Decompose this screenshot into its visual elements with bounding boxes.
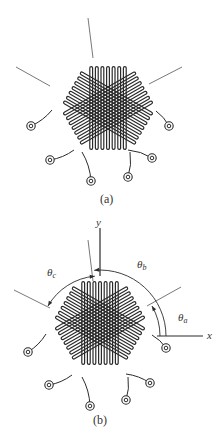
strain-gauge-rosette-diagram: (a) (b) y x θa θb θc — [0, 0, 224, 438]
gauge-element-150deg — [56, 287, 145, 359]
solder-terminal-icon — [87, 177, 95, 185]
gauge-axis-reference-line — [14, 290, 50, 308]
gauge-axis-reference-line — [88, 240, 93, 281]
gauge-grid-loops — [64, 72, 153, 144]
y-axis-label: y — [95, 216, 101, 228]
theta-a-label: θa — [178, 311, 187, 325]
figure-a-caption: (a) — [100, 192, 113, 206]
solder-terminal-icon — [146, 379, 154, 387]
theta-c-label: θc — [47, 266, 56, 280]
solder-terminal-icon — [148, 154, 156, 162]
figure-a-rosette — [16, 18, 182, 185]
figure-b-caption: (b) — [93, 413, 107, 427]
solder-terminal-icon — [45, 381, 53, 389]
gauge-axis-reference-line — [88, 18, 93, 58]
gauge-axis-reference-line — [149, 67, 182, 84]
figure-b-rosette-with-angles — [14, 228, 203, 410]
solder-terminal-icon — [86, 402, 94, 410]
solder-terminal-icon — [27, 122, 35, 130]
gauge-axis-reference-line — [147, 287, 181, 306]
x-axis-label: x — [206, 329, 212, 341]
solder-terminal-icon — [24, 348, 32, 356]
solder-terminal-icon — [124, 173, 132, 181]
arrowhead-icon — [152, 306, 156, 311]
arrowhead-icon — [48, 301, 52, 306]
gauge-grid-loops — [56, 287, 145, 359]
gauge-axis-reference-line — [16, 67, 50, 86]
gauge-element-150deg — [64, 72, 153, 144]
theta-b-label: θb — [137, 258, 146, 272]
solder-terminal-icon — [46, 156, 54, 164]
solder-terminal-icon — [162, 344, 170, 352]
solder-terminal-icon — [165, 122, 173, 130]
solder-terminal-icon — [122, 396, 130, 404]
